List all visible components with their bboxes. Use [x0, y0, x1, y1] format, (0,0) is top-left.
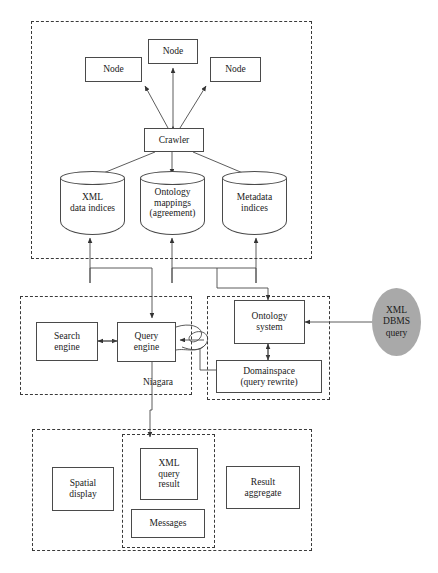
node-box-center[interactable]: Node	[148, 39, 198, 64]
ontology-mappings-label: Ontology mappings (agreement)	[140, 171, 205, 235]
messages-box[interactable]: Messages	[131, 509, 205, 538]
crawler-box[interactable]: Crawler	[144, 128, 204, 152]
xml-data-indices-label: XML data indices	[60, 171, 125, 235]
metadata-indices-cylinder[interactable]: Metadata indices	[222, 171, 287, 235]
domainspace-box[interactable]: Domainspace (query rewrite)	[216, 360, 322, 393]
ontology-system-box[interactable]: Ontology system	[234, 300, 305, 344]
ontology-mappings-cylinder[interactable]: Ontology mappings (agreement)	[140, 171, 205, 235]
search-engine-box[interactable]: Search engine	[36, 322, 98, 361]
xml-query-result-box[interactable]: XML query result	[140, 448, 198, 500]
domainspace-label: Domainspace (query rewrite)	[240, 366, 297, 387]
xml-dbms-query-label: XML DBMS query	[383, 305, 410, 340]
node-box-left-label: Node	[103, 64, 124, 75]
node-box-center-label: Node	[163, 46, 184, 57]
crawler-box-label: Crawler	[159, 135, 190, 146]
result-aggregate-box[interactable]: Result aggregate	[226, 466, 300, 509]
query-engine-box[interactable]: Query engine	[117, 322, 176, 362]
spatial-display-label: Spatial display	[69, 478, 96, 499]
node-box-left[interactable]: Node	[85, 57, 142, 82]
niagara-group-label: Niagara	[143, 377, 173, 387]
xml-query-result-label: XML query result	[158, 458, 180, 490]
node-box-right[interactable]: Node	[210, 57, 261, 82]
search-engine-label: Search engine	[54, 331, 80, 352]
ontology-system-label: Ontology system	[252, 311, 288, 332]
node-box-right-label: Node	[225, 64, 246, 75]
messages-label: Messages	[150, 518, 187, 529]
xml-dbms-query-ellipse[interactable]: XML DBMS query	[372, 288, 421, 356]
xml-data-indices-cylinder[interactable]: XML data indices	[60, 171, 125, 235]
result-aggregate-label: Result aggregate	[245, 477, 282, 498]
spatial-display-box[interactable]: Spatial display	[52, 467, 114, 511]
query-engine-label: Query engine	[134, 331, 159, 352]
metadata-indices-label: Metadata indices	[222, 171, 287, 235]
diagram-canvas: Node Node Node Crawler XML data indices …	[0, 0, 438, 573]
